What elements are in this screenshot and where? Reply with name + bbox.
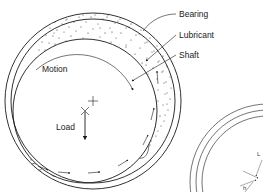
- journal-bearing-figure: Motion Load Bearing Lubricant Shaft: [0, 0, 263, 192]
- load-label: Load: [56, 122, 75, 132]
- motion-label: Motion: [42, 64, 68, 74]
- bearing-label: Bearing: [179, 9, 209, 19]
- shaft-leader-line: [132, 55, 176, 81]
- bearing-diagram-svg: Motion Load Bearing Lubricant Shaft: [0, 0, 263, 192]
- lubricant-label: Lubricant: [179, 30, 215, 40]
- secondary-label-lower: h: [243, 185, 246, 191]
- bearing-leader-line: [143, 14, 176, 31]
- secondary-bearing-partial: L h: [190, 104, 263, 192]
- secondary-label-upper: L: [257, 151, 261, 157]
- bearing-center-marker: [88, 96, 98, 106]
- lubricant-leader-line: [146, 35, 176, 61]
- lubricant-film-stipple: [26, 11, 171, 170]
- shaft-label: Shaft: [179, 50, 199, 60]
